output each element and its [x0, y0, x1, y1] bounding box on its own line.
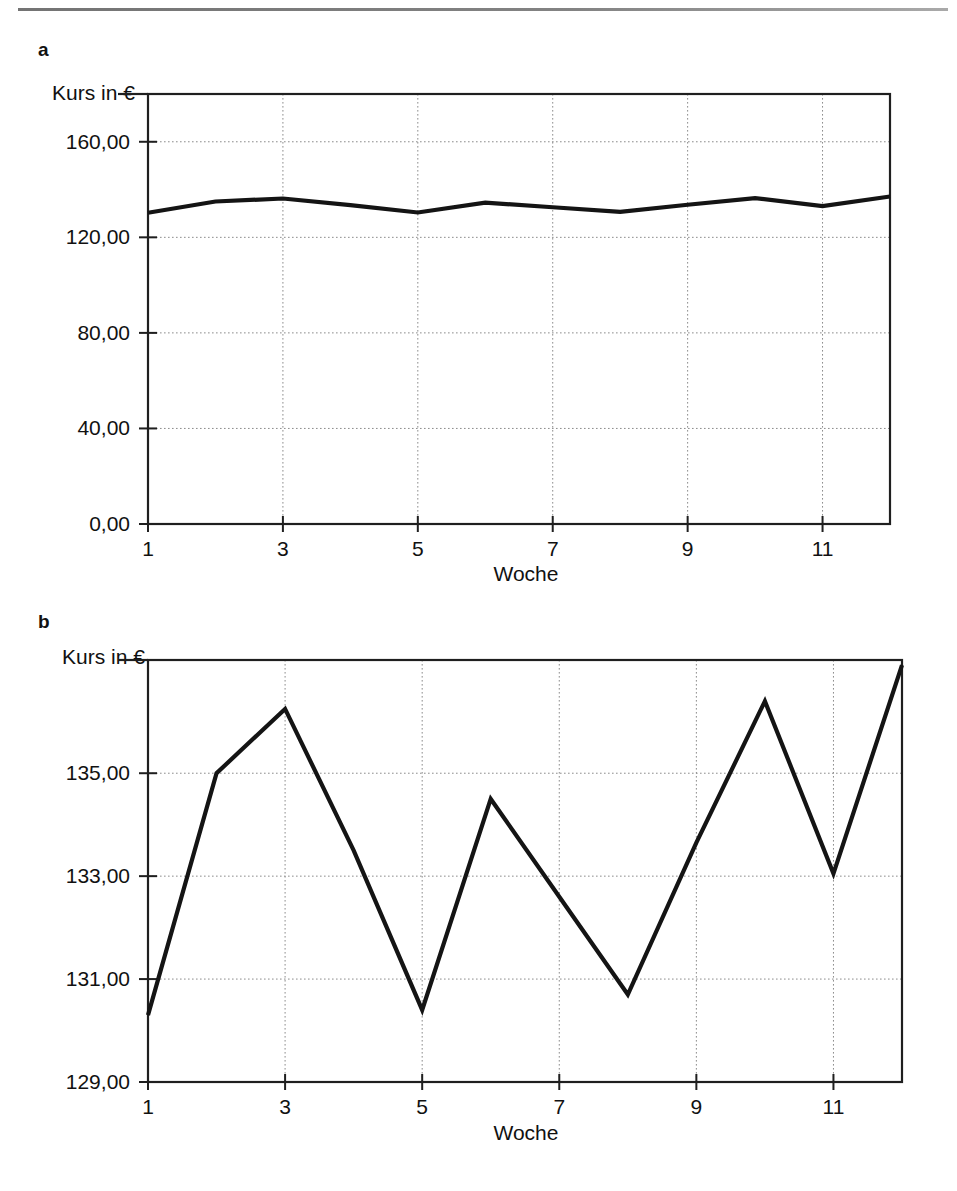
- x-tick-label: 1: [142, 537, 154, 556]
- x-tick-label: 3: [279, 1095, 291, 1115]
- x-tick-label: 5: [416, 1095, 428, 1115]
- x-tick-label: 7: [547, 537, 559, 556]
- plot-frame: [148, 94, 890, 524]
- x-tick-label: 9: [691, 1095, 703, 1115]
- y-tick-label: 135,00: [66, 761, 130, 784]
- page-top-rule: [18, 8, 948, 11]
- data-series-line: [148, 196, 890, 212]
- chart-svg-a: 0,0040,0080,00120,00160,001357911: [0, 26, 957, 556]
- x-tick-label: 5: [412, 537, 424, 556]
- figure-a: a Kurs in € Woche 0,0040,0080,00120,0016…: [0, 26, 957, 596]
- x-tick-label: 11: [823, 1095, 845, 1115]
- y-tick-label: 0,00: [89, 512, 130, 535]
- plot-area-a: 0,0040,0080,00120,00160,001357911: [0, 26, 957, 556]
- y-tick-label: 129,00: [66, 1070, 130, 1093]
- x-tick-label: 1: [142, 1095, 154, 1115]
- chart-svg-b: 129,00131,00133,00135,001357911: [0, 600, 957, 1115]
- x-tick-label: 7: [553, 1095, 565, 1115]
- y-tick-label: 40,00: [77, 416, 130, 439]
- plot-frame: [148, 660, 902, 1082]
- data-series-line: [148, 665, 902, 1015]
- x-axis-title-a: Woche: [426, 563, 626, 584]
- plot-area-b: 129,00131,00133,00135,001357911: [0, 600, 957, 1115]
- y-tick-label: 120,00: [66, 225, 130, 248]
- x-tick-label: 11: [812, 537, 834, 556]
- y-tick-label: 131,00: [66, 967, 130, 990]
- figure-b: b Kurs in € Woche 129,00131,00133,00135,…: [0, 600, 957, 1180]
- y-tick-label: 160,00: [66, 130, 130, 153]
- y-tick-label: 133,00: [66, 864, 130, 887]
- x-axis-title-b: Woche: [426, 1122, 626, 1143]
- x-tick-label: 9: [682, 537, 694, 556]
- y-tick-label: 80,00: [77, 321, 130, 344]
- x-tick-label: 3: [277, 537, 289, 556]
